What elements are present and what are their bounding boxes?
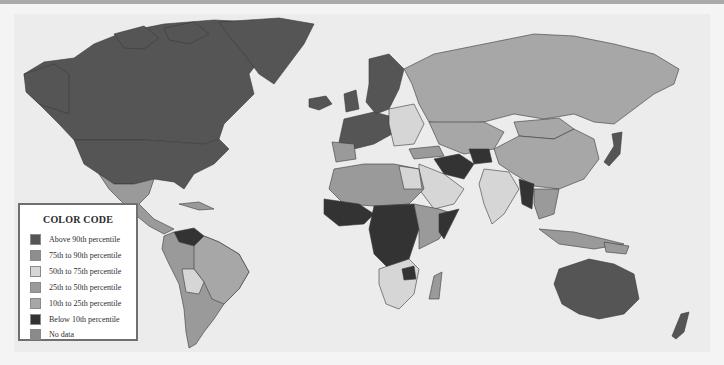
region-uk [344, 90, 359, 112]
region-caribbean [179, 202, 214, 210]
legend-label: 75th to 90th percentile [49, 251, 121, 260]
region-myanmar [519, 179, 534, 209]
region-scandinavia [366, 54, 404, 114]
legend-title: COLOR CODE [20, 214, 136, 225]
legend-item-75-90: 75th to 90th percentile [30, 249, 121, 261]
legend-item-50-75: 50th to 75th percentile [30, 265, 121, 277]
swatch-no-data [30, 329, 41, 340]
region-new-zealand [672, 312, 689, 339]
legend-item-no-data: No data [30, 328, 74, 340]
swatch-75-90 [30, 250, 41, 261]
region-india [479, 169, 519, 224]
top-bar [0, 0, 724, 4]
legend-label: 10th to 25th percentile [49, 299, 121, 308]
legend-item-below-10: Below 10th percentile [30, 313, 120, 325]
legend-item-above-90: Above 90th percentile [30, 233, 120, 245]
legend-item-25-50: 25th to 50th percentile [30, 281, 121, 293]
swatch-50-75 [30, 266, 41, 277]
region-iberia [332, 142, 356, 162]
swatch-above-90 [30, 234, 41, 245]
region-new-guinea [604, 242, 629, 254]
region-afghanistan [469, 149, 492, 164]
legend-item-10-25: 10th to 25th percentile [30, 297, 121, 309]
color-code-legend: COLOR CODE Above 90th percentile 75th to… [18, 203, 138, 341]
region-alaska [24, 64, 69, 114]
region-se-asia [534, 189, 559, 219]
region-iceland [309, 96, 332, 110]
region-japan [604, 132, 622, 166]
legend-label: No data [49, 330, 74, 339]
legend-label: Below 10th percentile [49, 315, 120, 324]
swatch-10-25 [30, 298, 41, 309]
region-central-africa [369, 204, 419, 269]
region-east-europe [389, 104, 424, 146]
swatch-below-10 [30, 314, 41, 325]
swatch-25-50 [30, 282, 41, 293]
region-australia [554, 259, 639, 319]
legend-label: 25th to 50th percentile [49, 283, 121, 292]
legend-label: 50th to 75th percentile [49, 267, 121, 276]
region-somalia [439, 209, 459, 239]
region-russia [404, 34, 679, 124]
region-turkey [409, 146, 444, 159]
region-madagascar [429, 272, 442, 299]
legend-label: Above 90th percentile [49, 235, 120, 244]
